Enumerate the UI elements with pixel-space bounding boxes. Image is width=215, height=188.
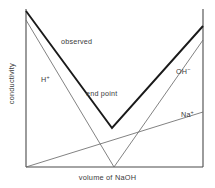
annotation-oh-minus-text: OH bbox=[176, 67, 187, 76]
annotation-h-plus-charge: + bbox=[46, 74, 49, 80]
annotation-oh-minus-charge: − bbox=[187, 66, 190, 72]
annotation-h-plus: H+ bbox=[41, 76, 50, 83]
annotation-end-point-text: end point bbox=[86, 89, 117, 98]
series-line-na-plus bbox=[26, 112, 203, 167]
annotation-observed: observed bbox=[61, 38, 92, 45]
conductometric-titration-figure: observed H+ end point OH− Na+ volume of … bbox=[0, 0, 215, 188]
annotation-na-plus-charge: + bbox=[191, 109, 194, 115]
annotation-na-plus: Na+ bbox=[181, 111, 194, 118]
annotation-na-plus-text: Na bbox=[181, 110, 191, 119]
y-axis-title: conductivity bbox=[8, 44, 15, 124]
annotation-observed-text: observed bbox=[61, 37, 92, 46]
x-axis-title: volume of NaOH bbox=[0, 174, 215, 181]
series-line-oh-minus bbox=[114, 40, 203, 167]
annotation-oh-minus: OH− bbox=[176, 68, 191, 75]
annotation-end-point: end point bbox=[86, 90, 117, 97]
